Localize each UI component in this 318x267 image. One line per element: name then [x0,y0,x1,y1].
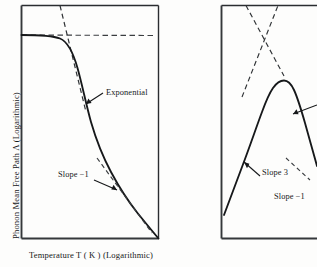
left-plot-frame [22,6,159,239]
right-slope-three-asymptote-dashed [242,6,278,98]
right-plot-canvas [180,0,317,267]
left-annotation-exponential: Exponential [106,88,148,97]
left-plot-canvas [0,0,180,267]
right-plot-frame [222,6,318,239]
left-x-axis-label: Temperature T ( K ) (Logarithmic) [29,250,153,260]
right-slope-three-leader [244,162,260,176]
figure-page: Phonon Mean Free Path Λ (Logarithmic) Te… [0,0,317,267]
panel-phonon-mean-free-path: Phonon Mean Free Path Λ (Logarithmic) Te… [0,0,180,267]
left-slope-minus-one-tangent-dashed [97,158,152,233]
left-exponential-leader [86,93,103,104]
left-annotation-slope-minus-one: Slope −1 [58,170,89,179]
right-annotation-slope-minus-one: Slope −1 [274,192,305,201]
left-slope-minus-one-leader [94,180,117,190]
right-slope-minus-one-asymptote-dashed [246,6,284,77]
right-annotation-slope-three: Slope 3 [262,168,288,177]
right-slope-minus-one-tangent-dashed [286,158,310,180]
left-mean-free-path-curve [22,35,159,239]
left-exponential-asymptote-dashed [60,6,86,113]
right-descending-branch-leader [293,105,317,114]
left-y-axis-label: Phonon Mean Free Path Λ (Logarithmic) [11,92,21,239]
panel-lattice-thermal-conductivity: Lattice Thermal Conductivity κ (Logarith… [180,0,317,267]
